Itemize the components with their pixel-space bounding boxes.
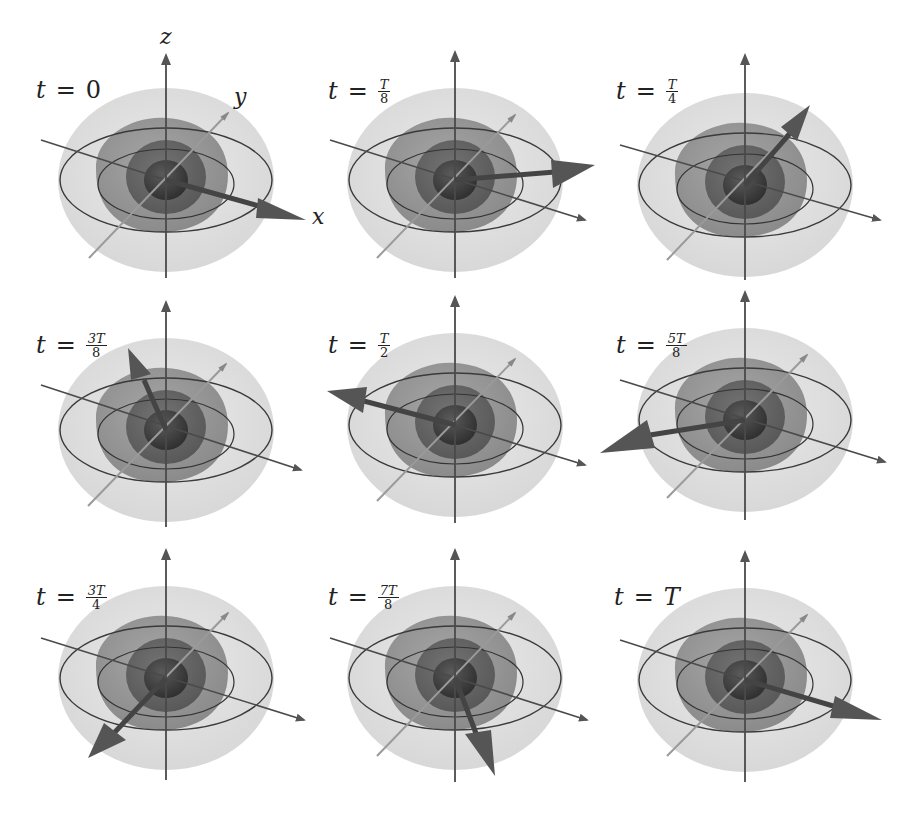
time-label-t-7T-8: t= 7T8 bbox=[328, 583, 399, 611]
time-label-t-5T-8: t= 5T8 bbox=[616, 331, 687, 359]
z-axis-label: z bbox=[160, 24, 172, 49]
time-label-t-0: t=0 bbox=[36, 76, 101, 104]
time-label-t-T-8: t= T8 bbox=[328, 77, 390, 105]
y-axis-label: y bbox=[234, 84, 246, 109]
time-label-t-T-4: t= T4 bbox=[616, 77, 678, 105]
x-axis-label: x bbox=[312, 204, 324, 229]
time-label-t-T: t=T bbox=[614, 583, 680, 611]
time-label-t-T-2: t= T2 bbox=[328, 331, 390, 359]
time-label-t-3T-8: t= 3T8 bbox=[36, 331, 107, 359]
panel-t-5T-8 bbox=[600, 292, 885, 520]
rotating-vector-figure bbox=[0, 0, 920, 819]
time-label-t-3T-4: t= 3T4 bbox=[36, 583, 107, 611]
